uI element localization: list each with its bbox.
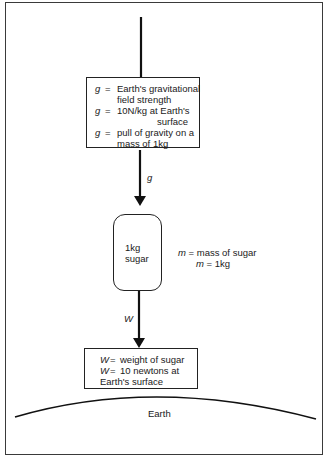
equals-sign: = [105, 127, 117, 138]
weight-line-3: Earth's surface [100, 376, 197, 387]
var-g: g [95, 127, 105, 138]
w-arrowhead-icon [133, 338, 145, 348]
sugar-bag-mass: 1kg [125, 242, 161, 253]
var-m: m [178, 247, 186, 258]
weight-text: 10 newtons at [120, 365, 179, 376]
equals-sign: = [105, 105, 117, 116]
field-line-4: surface [95, 116, 199, 127]
var-g: g [95, 83, 105, 94]
var-w: W [100, 354, 110, 365]
g-arrowhead-icon [134, 196, 146, 206]
diagram-lines [0, 0, 329, 462]
field-text: pull of gravity on a [117, 127, 194, 138]
mass-note-line-1: m = mass of sugar [178, 247, 256, 258]
field-strength-box: g=Earth's gravitational field strength g… [86, 77, 200, 148]
weight-line-2: W=10 newtons at [100, 365, 197, 376]
g-arrow-label: g [147, 172, 152, 183]
field-line-5: g=pull of gravity on a [95, 127, 199, 138]
var-m: m [196, 258, 204, 269]
w-arrow-label: W [124, 313, 133, 324]
field-line-1: g=Earth's gravitational [95, 83, 199, 94]
sugar-bag: 1kg sugar [113, 214, 162, 291]
weight-text: weight of sugar [120, 354, 184, 365]
mass-definition: = mass of sugar [186, 247, 257, 258]
sugar-bag-label: sugar [125, 253, 161, 264]
var-g: g [95, 105, 105, 116]
weight-box: W=weight of sugar W=10 newtons at Earth'… [84, 348, 198, 389]
earth-label: Earth [148, 408, 171, 419]
field-text: 10N/kg at Earth's [117, 105, 190, 116]
equals-sign: = [110, 354, 120, 365]
mass-note: m = mass of sugar m = 1kg [178, 247, 256, 269]
field-line-3: g=10N/kg at Earth's [95, 105, 199, 116]
equals-sign: = [105, 83, 117, 94]
weight-line-1: W=weight of sugar [100, 354, 197, 365]
mass-value: = 1kg [204, 258, 230, 269]
field-line-2: field strength [95, 94, 199, 105]
var-w: W [100, 365, 110, 376]
field-text: Earth's gravitational [117, 83, 200, 94]
mass-note-line-2: m = 1kg [178, 258, 256, 269]
equals-sign: = [110, 365, 120, 376]
field-line-6: mass of 1kg [95, 138, 199, 149]
